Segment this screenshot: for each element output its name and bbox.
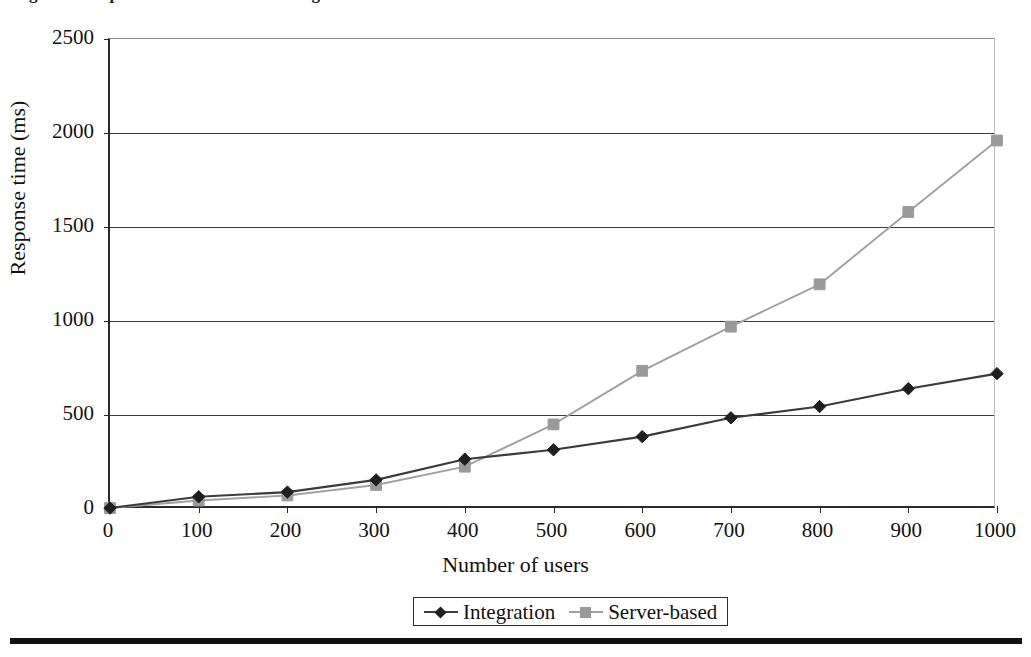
series-server-based (105, 135, 1003, 513)
data-point-marker (902, 382, 914, 394)
gridline (110, 415, 994, 416)
x-tick-label: 600 (600, 519, 680, 541)
data-point-marker (903, 207, 914, 218)
data-point-marker (193, 495, 204, 506)
x-tick-label: 400 (423, 519, 503, 541)
x-tick-mark (554, 506, 555, 513)
y-tick-label: 500 (32, 403, 94, 423)
x-tick-label: 100 (157, 519, 237, 541)
x-tick-label: 300 (334, 519, 414, 541)
y-tick-mark (104, 227, 110, 228)
legend-label: Integration (463, 601, 555, 623)
y-tick-mark (104, 39, 110, 40)
x-tick-label: 200 (245, 519, 325, 541)
series-line (110, 374, 997, 508)
y-tick-mark (104, 133, 110, 134)
x-tick-label: 0 (68, 519, 148, 541)
x-tick-mark (731, 506, 732, 513)
y-tick-label: 2500 (32, 27, 94, 47)
legend-entry: Integration (424, 601, 555, 623)
diamond-marker-icon (434, 606, 446, 618)
x-tick-label: 700 (689, 519, 769, 541)
figure-caption-clipped: Figure 5. Response times under increasin… (0, 0, 1031, 6)
gridline (110, 321, 994, 322)
x-tick-label: 500 (512, 519, 592, 541)
data-point-marker (371, 480, 382, 491)
x-tick-mark (110, 506, 111, 513)
series-layer (110, 39, 997, 509)
x-tick-label: 1000 (955, 519, 1031, 541)
x-tick-mark (287, 506, 288, 513)
data-point-marker (992, 135, 1003, 146)
data-point-marker (547, 444, 559, 456)
gridline (110, 227, 994, 228)
data-point-marker (814, 279, 825, 290)
plot-area (108, 38, 995, 508)
y-tick-label: 2000 (32, 121, 94, 141)
x-tick-mark (820, 506, 821, 513)
data-point-marker (459, 453, 471, 465)
data-point-marker (991, 367, 1003, 379)
y-tick-mark (104, 415, 110, 416)
data-point-marker (370, 474, 382, 486)
data-point-marker (281, 486, 293, 498)
series-line (110, 141, 997, 509)
y-tick-label: 1000 (32, 309, 94, 329)
data-point-marker (459, 461, 470, 472)
figure-caption-text: Figure 5. Response times under increasin… (0, 0, 1031, 4)
data-point-marker (282, 490, 293, 501)
y-tick-label: 1500 (32, 215, 94, 235)
x-tick-mark (642, 506, 643, 513)
x-tick-mark (908, 506, 909, 513)
x-axis-title: Number of users (0, 552, 1031, 578)
data-point-marker (725, 412, 737, 424)
y-axis-title: Response time (ms) (5, 38, 31, 338)
square-marker-icon (580, 607, 591, 618)
figure-root: Figure 5. Response times under increasin… (0, 0, 1031, 657)
data-point-marker (726, 321, 737, 332)
bottom-rule (10, 638, 1022, 644)
legend-entry: Server-based (569, 601, 717, 623)
legend-swatch-diamond-icon (424, 605, 458, 619)
gridline (110, 133, 994, 134)
data-point-marker (813, 400, 825, 412)
legend-swatch-square-icon (569, 605, 603, 619)
x-tick-mark (997, 506, 998, 513)
data-point-marker (548, 419, 559, 430)
legend-label: Server-based (608, 601, 717, 623)
x-tick-mark (465, 506, 466, 513)
y-tick-mark (104, 321, 110, 322)
series-integration (104, 367, 1003, 514)
data-point-marker (636, 430, 648, 442)
x-tick-mark (199, 506, 200, 513)
x-tick-label: 800 (778, 519, 858, 541)
data-point-marker (637, 365, 648, 376)
data-point-marker (193, 491, 205, 503)
y-tick-label: 0 (32, 497, 94, 517)
x-tick-label: 900 (866, 519, 946, 541)
x-tick-mark (376, 506, 377, 513)
chart-legend: IntegrationServer-based (413, 597, 728, 626)
